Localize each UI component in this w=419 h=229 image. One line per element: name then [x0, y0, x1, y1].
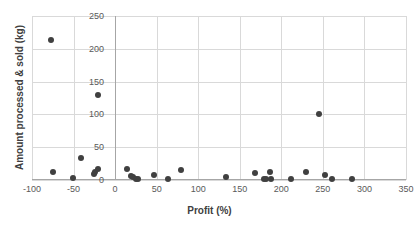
gridline-vertical	[157, 16, 158, 180]
y-tick-label: 50	[94, 142, 104, 152]
y-axis-line	[115, 16, 116, 180]
data-point	[50, 169, 56, 175]
y-tick-label: 200	[89, 44, 104, 54]
data-point	[288, 176, 294, 182]
data-point	[267, 169, 273, 175]
gridline-vertical	[198, 16, 199, 180]
x-tick-label: 150	[232, 184, 247, 194]
data-point	[329, 176, 335, 182]
data-point	[48, 37, 54, 43]
x-tick-label: 200	[274, 184, 289, 194]
data-point	[70, 175, 76, 181]
x-tick-label: 50	[152, 184, 162, 194]
x-tick-label: -50	[67, 184, 80, 194]
x-axis-title: Profit (%)	[0, 205, 419, 216]
y-tick-label: 150	[89, 77, 104, 87]
gridline-vertical	[281, 16, 282, 180]
gridline-vertical	[406, 16, 407, 180]
gridline-vertical	[74, 16, 75, 180]
data-point	[124, 166, 130, 172]
y-tick-label: 250	[89, 11, 104, 21]
x-tick-label: 250	[315, 184, 330, 194]
x-tick-label: 300	[357, 184, 372, 194]
data-point	[252, 170, 258, 176]
data-point	[223, 174, 229, 180]
gridline-vertical	[323, 16, 324, 180]
data-point	[268, 176, 274, 182]
x-tick-label: -100	[23, 184, 41, 194]
gridline-vertical	[32, 16, 33, 180]
data-point	[178, 167, 184, 173]
scatter-chart: 050100150200250 -100-5005010015020025030…	[0, 0, 419, 229]
y-axis-title: Amount processed & sold (kg)	[14, 18, 25, 178]
x-tick-label: 0	[113, 184, 118, 194]
x-tick-label: 350	[398, 184, 413, 194]
data-point	[165, 176, 171, 182]
y-tick-label: 100	[89, 109, 104, 119]
data-point	[303, 169, 309, 175]
data-point	[135, 176, 141, 182]
data-point	[316, 111, 322, 117]
data-point	[322, 172, 328, 178]
gridline-vertical	[364, 16, 365, 180]
gridline-vertical	[240, 16, 241, 180]
x-axis-tick-labels: -100-50050100150200250300350	[0, 184, 419, 198]
x-tick-label: 100	[191, 184, 206, 194]
data-point	[349, 176, 355, 182]
